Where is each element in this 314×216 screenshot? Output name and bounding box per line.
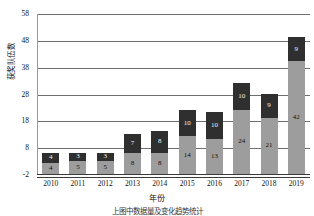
bar-2017-top-value: 10 bbox=[238, 93, 245, 100]
x-axis-tick-labels: 2010201120122013201420152016201720182019 bbox=[37, 179, 310, 191]
bar-2010-top-value: 4 bbox=[49, 154, 53, 161]
bar-2019-bottom-value: 42 bbox=[293, 114, 300, 121]
bar-2015[interactable]: 1014 bbox=[179, 110, 196, 174]
bar-2012-top-value: 3 bbox=[104, 153, 108, 160]
bar-2016-top-segment: 10 bbox=[206, 112, 223, 139]
bar-2017-bottom-segment: 24 bbox=[233, 110, 250, 174]
y-tick-8: 8 bbox=[25, 144, 29, 152]
bar-2012-bottom-segment: 5 bbox=[97, 161, 114, 174]
bar-2014-top-value: 8 bbox=[158, 138, 162, 145]
bar-2012-bottom-value: 5 bbox=[104, 164, 108, 171]
y-tick--2: -2 bbox=[23, 171, 29, 179]
bar-2013-bottom-segment: 8 bbox=[124, 153, 141, 174]
bar-2010[interactable]: 44 bbox=[42, 153, 59, 174]
bar-2011-top-value: 3 bbox=[76, 153, 80, 160]
bar-2012[interactable]: 35 bbox=[97, 153, 114, 174]
x-tick-2019: 2019 bbox=[279, 179, 313, 188]
bar-2014-bottom-segment: 8 bbox=[151, 153, 168, 174]
bar-2011-bottom-segment: 5 bbox=[69, 161, 86, 174]
bar-2018-top-value: 9 bbox=[267, 102, 271, 109]
bar-2011-bottom-value: 5 bbox=[76, 164, 80, 171]
bar-2013-bottom-value: 8 bbox=[131, 160, 135, 167]
figure-caption: 上图中数据量及变化趋势统计 bbox=[0, 205, 314, 216]
bar-2019[interactable]: 942 bbox=[288, 37, 305, 174]
bar-2018-bottom-segment: 21 bbox=[261, 118, 278, 174]
chart-figure: 获奖队伍数 58 48 38 28 18 8 -2 44353578881014… bbox=[0, 0, 314, 216]
bar-2014-bottom-value: 8 bbox=[158, 160, 162, 167]
y-tick-18: 18 bbox=[22, 117, 30, 125]
bar-2014-top-segment: 8 bbox=[151, 131, 168, 152]
bar-2015-top-value: 10 bbox=[184, 120, 191, 127]
bar-2016-top-value: 10 bbox=[211, 122, 218, 129]
bar-group: 4435357888101410131024921942 bbox=[37, 14, 310, 175]
bar-2010-bottom-segment: 4 bbox=[42, 163, 59, 174]
bar-2015-bottom-value: 14 bbox=[184, 152, 191, 159]
x-axis-line bbox=[37, 174, 310, 175]
plot-area: 4435357888101410131024921942 bbox=[37, 14, 310, 175]
bar-2015-top-segment: 10 bbox=[179, 110, 196, 137]
bar-2017-top-segment: 10 bbox=[233, 83, 250, 110]
y-tick-28: 28 bbox=[22, 91, 30, 99]
y-axis-tick-labels: 58 48 38 28 18 8 -2 bbox=[0, 14, 33, 175]
bar-2019-bottom-segment: 42 bbox=[288, 61, 305, 174]
bar-2015-bottom-segment: 14 bbox=[179, 136, 196, 174]
bar-2017-bottom-value: 24 bbox=[238, 138, 245, 145]
bar-2014[interactable]: 88 bbox=[151, 131, 168, 174]
bar-2016[interactable]: 1013 bbox=[206, 112, 223, 174]
bar-2017[interactable]: 1024 bbox=[233, 83, 250, 174]
bar-2018-top-segment: 9 bbox=[261, 94, 278, 118]
bar-2013[interactable]: 78 bbox=[124, 134, 141, 174]
x-axis-line-secondary bbox=[37, 177, 310, 178]
bar-2012-top-segment: 3 bbox=[97, 153, 114, 161]
bar-2016-bottom-value: 13 bbox=[211, 153, 218, 160]
y-tick-58: 58 bbox=[22, 10, 30, 18]
bar-2019-top-segment: 9 bbox=[288, 37, 305, 61]
y-tick-48: 48 bbox=[22, 37, 30, 45]
bar-2013-top-value: 7 bbox=[131, 140, 135, 147]
bar-2011[interactable]: 35 bbox=[69, 153, 86, 174]
bar-2010-bottom-value: 4 bbox=[49, 165, 53, 172]
bar-2013-top-segment: 7 bbox=[124, 134, 141, 153]
bar-2018-bottom-value: 21 bbox=[266, 142, 273, 149]
bar-2018[interactable]: 921 bbox=[261, 94, 278, 174]
y-tick-38: 38 bbox=[22, 64, 30, 72]
x-axis-title: 年份 bbox=[0, 192, 314, 203]
bar-2010-top-segment: 4 bbox=[42, 153, 59, 164]
bar-2016-bottom-segment: 13 bbox=[206, 139, 223, 174]
bar-2011-top-segment: 3 bbox=[69, 153, 86, 161]
bar-2019-top-value: 9 bbox=[295, 46, 299, 53]
